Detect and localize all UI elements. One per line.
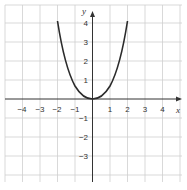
svg-text:3: 3 — [84, 38, 89, 47]
grid — [5, 5, 182, 182]
svg-text:−1: −1 — [70, 105, 80, 114]
y-axis-arrow-icon — [90, 11, 95, 17]
x-axis-label: x — [175, 105, 180, 115]
svg-text:−1: −1 — [79, 114, 89, 123]
svg-text:1: 1 — [108, 105, 113, 114]
svg-text:4: 4 — [160, 105, 165, 114]
svg-text:−4: −4 — [17, 105, 27, 114]
chart-canvas: −4 −3 −2 −1 1 2 3 4 x y 4 3 2 1 −1 −2 −3 — [0, 0, 187, 190]
svg-text:−2: −2 — [79, 133, 89, 142]
x-tick-labels: −4 −3 −2 −1 1 2 3 4 x — [17, 105, 180, 115]
svg-text:3: 3 — [143, 105, 148, 114]
y-tick-labels: y 4 3 2 1 −1 −2 −3 — [79, 6, 89, 161]
svg-text:−3: −3 — [35, 105, 45, 114]
svg-text:1: 1 — [84, 76, 89, 85]
svg-text:−3: −3 — [79, 152, 89, 161]
svg-text:−2: −2 — [52, 105, 62, 114]
y-axis-label: y — [81, 6, 86, 16]
svg-text:2: 2 — [125, 105, 130, 114]
svg-text:2: 2 — [84, 57, 89, 66]
svg-text:4: 4 — [84, 19, 89, 28]
x-axis-arrow-icon — [176, 97, 182, 102]
